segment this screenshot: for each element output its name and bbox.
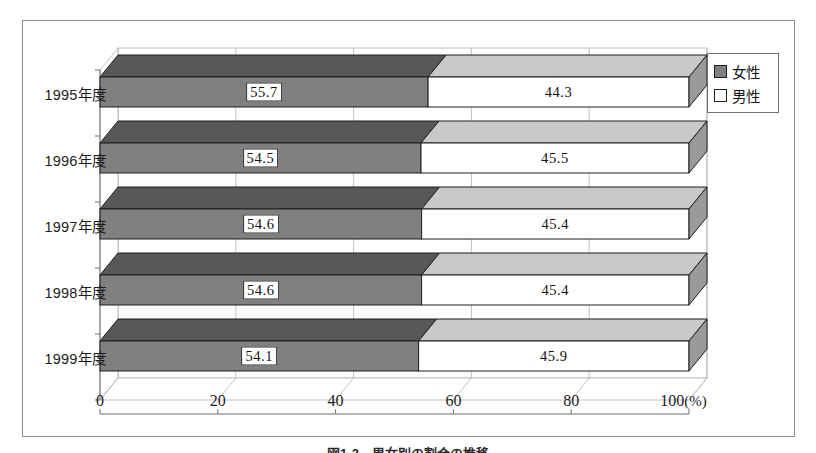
x-axis-unit-label: (%) bbox=[684, 393, 707, 409]
figure-caption: 図1-2 男女別の割合の推移 bbox=[0, 443, 816, 453]
legend-label-male: 男性 bbox=[732, 85, 760, 106]
bar-value-label: 44.3 bbox=[545, 84, 573, 100]
y-axis-category-label: 1996年度 bbox=[10, 149, 106, 170]
bar-value-label: 45.4 bbox=[541, 282, 569, 298]
bar-value-label: 45.5 bbox=[541, 150, 569, 166]
legend-swatch-male-icon bbox=[714, 89, 727, 102]
y-axis-category-labels: 1995年度1996年度1997年度1998年度1999年度 bbox=[10, 0, 106, 453]
y-axis-category-label: 1998年度 bbox=[10, 281, 106, 302]
x-axis-tick-labels: 020406080100(%) bbox=[0, 392, 816, 418]
legend-item-male: 男性 bbox=[714, 83, 778, 107]
y-axis-category-label: 1999年度 bbox=[10, 347, 106, 368]
legend-item-female: 女性 bbox=[714, 59, 778, 83]
bar-value-label: 54.1 bbox=[241, 347, 277, 366]
bar-value-label: 54.6 bbox=[243, 281, 279, 300]
legend-label-female: 女性 bbox=[732, 61, 760, 82]
x-axis-tick-label: 60 bbox=[445, 392, 461, 410]
x-axis-tick-label: 0 bbox=[96, 392, 104, 410]
bar-value-label: 54.5 bbox=[243, 149, 279, 168]
bar-value-label: 45.4 bbox=[541, 216, 569, 232]
y-axis-category-label: 1995年度 bbox=[10, 83, 106, 104]
y-axis-category-label: 1997年度 bbox=[10, 215, 106, 236]
chart-legend: 女性 男性 bbox=[707, 53, 779, 113]
bar-value-label: 45.9 bbox=[540, 348, 568, 364]
x-axis-tick-label: 100(%) bbox=[660, 392, 707, 410]
bar-value-label: 55.7 bbox=[246, 83, 282, 102]
x-axis-tick-label: 80 bbox=[563, 392, 579, 410]
x-axis-tick-label: 20 bbox=[210, 392, 226, 410]
legend-swatch-female-icon bbox=[714, 65, 727, 78]
figure-frame bbox=[22, 20, 795, 437]
bar-value-label: 54.6 bbox=[243, 215, 279, 234]
x-axis-tick-label: 40 bbox=[328, 392, 344, 410]
